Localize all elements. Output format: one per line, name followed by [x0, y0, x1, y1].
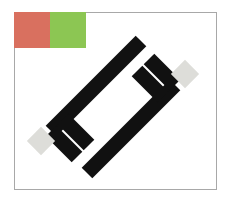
- red-swatch[interactable]: [14, 12, 50, 48]
- bracket-segments: [51, 41, 175, 173]
- screenshot-stage: [0, 0, 229, 202]
- color-swatch-strip: [14, 12, 86, 48]
- bracket-figure[interactable]: [51, 41, 175, 173]
- green-swatch[interactable]: [50, 12, 86, 48]
